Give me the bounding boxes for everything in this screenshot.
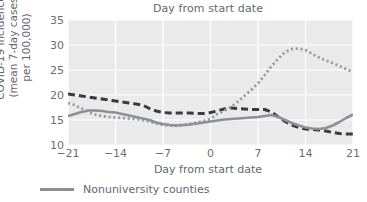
x-tick-label: −14 — [104, 147, 127, 160]
chart-title: Day from start date — [68, 2, 348, 15]
x-tick-label: 0 — [207, 147, 214, 160]
y-tick-label: 20 — [34, 89, 64, 102]
gridlines — [68, 20, 353, 145]
y-axis-label: COVID-19 incidence (mean 7-day cases per… — [0, 0, 33, 113]
x-tick-label: −21 — [56, 147, 79, 160]
y-tick-label: 35 — [34, 14, 64, 27]
plot-svg — [68, 20, 353, 145]
y-tick-label: 30 — [34, 39, 64, 52]
legend-label-nonuniversity-counties: Nonuniversity counties — [83, 183, 209, 196]
x-axis-ticks: −21−14−7071421 — [68, 147, 353, 163]
x-tick-label: 21 — [346, 147, 360, 160]
plot-area — [68, 20, 353, 145]
y-axis-ticks: 101520253035 — [31, 20, 64, 145]
legend-swatch-nonuniversity-counties — [40, 188, 74, 191]
x-axis-label: Day from start date — [68, 163, 348, 176]
x-tick-label: 7 — [255, 147, 262, 160]
legend: Nonuniversity counties — [40, 180, 209, 198]
y-tick-label: 25 — [34, 64, 64, 77]
y-tick-label: 15 — [34, 114, 64, 127]
chart-figure: Day from start date COVID-19 incidence (… — [0, 0, 367, 202]
x-tick-label: −7 — [155, 147, 171, 160]
x-tick-label: 14 — [299, 147, 313, 160]
